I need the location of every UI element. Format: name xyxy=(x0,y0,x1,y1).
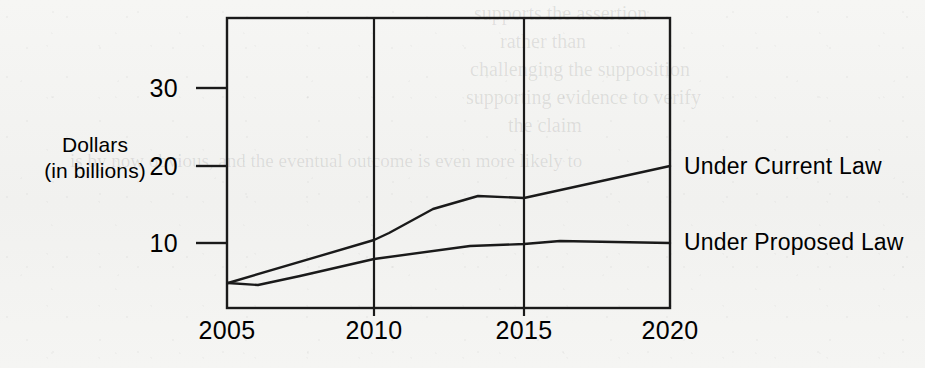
line-chart-plot xyxy=(0,0,925,368)
x-axis-ticks xyxy=(374,308,524,316)
series-line-under-current-law xyxy=(228,166,670,283)
y-axis-ticks xyxy=(196,88,227,243)
scanned-page: supports the assertion rather than chall… xyxy=(0,0,925,368)
plot-gridlines xyxy=(374,18,524,308)
